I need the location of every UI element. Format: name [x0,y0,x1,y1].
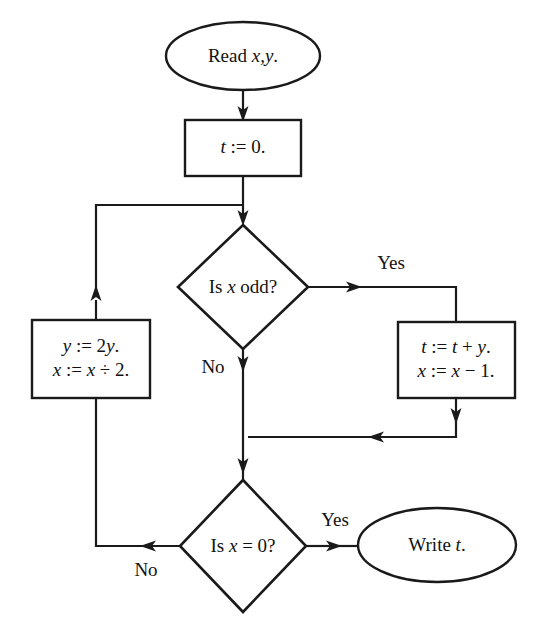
node-init-assign[interactable]: t := 0. [185,120,301,176]
node-end-write[interactable]: Write t. [358,508,516,582]
node-process-halve[interactable]: y := 2y. x := x ÷ 2. [32,320,150,398]
node-decision-zero-label: Is x = 0? [210,535,275,556]
edge-decision-zero-yes [306,541,360,552]
node-decision-is-x-zero[interactable]: Is x = 0? [180,480,306,612]
node-decision-odd-label: Is x odd? [209,276,278,297]
node-process-accumulate[interactable]: t := t + y. x := x − 1. [398,322,515,398]
node-end-label: Write t. [408,534,465,555]
node-decision-is-x-odd[interactable]: Is x odd? [178,225,308,349]
edge-label-zero-yes: Yes [321,509,349,530]
edge-decision-zero-no [96,398,180,552]
node-accumulate-line1: t := t + y. [421,336,490,357]
node-accumulate-line2: x := x − 1. [417,360,495,381]
edge-merge-to-decision-zero [238,437,249,480]
edge-accumulate-to-merge [248,398,462,443]
node-halve-line1: y := 2y. [61,335,120,356]
edge-label-odd-yes: Yes [377,252,405,273]
edge-decision-odd-no [238,349,249,437]
node-start-read[interactable]: Read x,y. [166,22,320,90]
edge-label-zero-no: No [134,559,157,580]
flowchart-canvas: Read x,y. t := 0. Is x odd? y := 2y. x :… [0,0,538,632]
edge-decision-odd-yes [308,282,456,323]
edge-label-odd-no: No [201,356,224,377]
node-init-label: t := 0. [220,136,265,157]
node-halve-line2: x := x ÷ 2. [52,359,130,380]
edge-start-to-init [238,90,249,122]
edge-init-to-decision-odd [238,176,249,226]
node-start-label: Read x,y. [208,45,278,66]
flowchart-svg: Read x,y. t := 0. Is x odd? y := 2y. x :… [0,0,538,632]
